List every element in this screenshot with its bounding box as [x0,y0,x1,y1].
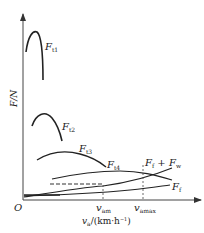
traction-resistance-diagram: Ft1 Ft2 Ft3 Ft4 Ff + Fw Ff vam vamax O F… [0,0,204,233]
curve-ft3 [37,152,106,167]
tick-vamax: vamax [134,202,157,214]
label-ft4: Ft4 [106,159,120,171]
curve-ft1 [26,32,43,80]
label-ft1: Ft1 [44,41,58,53]
tick-vam: vam [96,202,111,214]
label-ft2: Ft2 [61,121,75,133]
label-ff-plus-fw: Ff + Fw [144,157,182,169]
curve-ft2 [32,114,62,141]
y-axis-label: F/N [9,89,19,108]
x-axis-label: va/(km·h−1) [82,216,131,227]
label-ff: Ff [171,181,182,193]
origin-label: O [14,202,22,213]
curve-ft4 [52,171,172,180]
label-ft3: Ft3 [78,143,92,155]
